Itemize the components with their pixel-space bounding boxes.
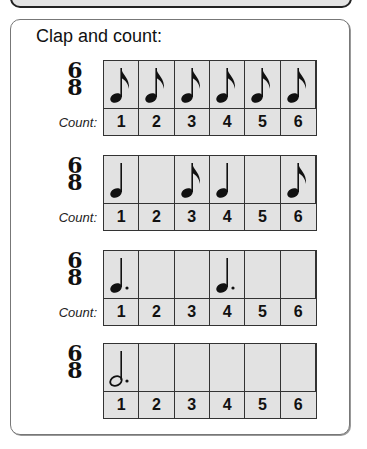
count-cell: 2 xyxy=(139,391,174,418)
note-cell xyxy=(175,61,210,108)
dotted-quarter-note-icon xyxy=(108,255,138,295)
eighth-note-icon xyxy=(249,65,279,105)
count-cell: 3 xyxy=(175,108,210,135)
note-cell xyxy=(245,344,280,391)
count-cell: 4 xyxy=(210,298,245,325)
note-cell xyxy=(104,61,139,108)
note-cell xyxy=(139,61,174,108)
note-cell xyxy=(210,61,245,108)
count-cell: 6 xyxy=(281,298,316,325)
count-cell: 5 xyxy=(245,203,280,230)
count-cell: 5 xyxy=(245,391,280,418)
time-signature: 68 xyxy=(58,252,92,286)
note-cell xyxy=(210,251,245,298)
note-cell xyxy=(245,251,280,298)
count-cell: 6 xyxy=(281,108,316,135)
eighth-note-icon xyxy=(285,160,315,200)
time-sig-bottom: 8 xyxy=(58,269,92,286)
count-cell: 5 xyxy=(245,298,280,325)
time-sig-bottom: 8 xyxy=(58,174,92,191)
quarter-note-icon xyxy=(214,160,244,200)
eighth-note-icon xyxy=(108,65,138,105)
count-cell: 2 xyxy=(139,203,174,230)
note-cell xyxy=(281,344,316,391)
note-cell xyxy=(139,156,174,203)
eighth-note-icon xyxy=(179,65,209,105)
note-cell xyxy=(104,251,139,298)
note-cell xyxy=(104,344,139,391)
note-cell xyxy=(175,251,210,298)
note-cell xyxy=(210,156,245,203)
instruction-text: Clap and count: xyxy=(36,26,162,47)
count-cell: 4 xyxy=(210,108,245,135)
count-label: Count: xyxy=(31,115,97,130)
time-signature: 68 xyxy=(58,345,92,379)
count-cell: 2 xyxy=(139,298,174,325)
count-cell: 6 xyxy=(281,203,316,230)
note-cell xyxy=(281,251,316,298)
note-cell xyxy=(139,344,174,391)
eighth-note-icon xyxy=(285,65,315,105)
time-sig-bottom: 8 xyxy=(58,362,92,379)
time-sig-bottom: 8 xyxy=(58,79,92,96)
eighth-note-icon xyxy=(143,65,173,105)
note-cell xyxy=(281,156,316,203)
note-cell xyxy=(104,156,139,203)
quarter-note-icon xyxy=(108,160,138,200)
note-cell xyxy=(245,156,280,203)
note-cell xyxy=(175,156,210,203)
count-cell: 1 xyxy=(104,203,139,230)
count-cell: 3 xyxy=(175,203,210,230)
count-cell: 1 xyxy=(104,298,139,325)
note-cell xyxy=(139,251,174,298)
count-cell: 3 xyxy=(175,298,210,325)
time-signature: 68 xyxy=(58,62,92,96)
previous-panel-edge xyxy=(10,0,352,8)
rhythm-grid: 123456 xyxy=(103,343,317,419)
rhythm-grid: 123456 xyxy=(103,60,317,136)
rhythm-grid: 123456 xyxy=(103,155,317,231)
note-cell xyxy=(210,344,245,391)
dotted-quarter-note-icon xyxy=(214,255,244,295)
eighth-note-icon xyxy=(179,160,209,200)
count-cell: 3 xyxy=(175,391,210,418)
dotted-half-note-icon xyxy=(108,348,138,388)
count-cell: 4 xyxy=(210,203,245,230)
note-cell xyxy=(281,61,316,108)
time-signature: 68 xyxy=(58,157,92,191)
count-cell: 5 xyxy=(245,108,280,135)
count-cell: 1 xyxy=(104,391,139,418)
eighth-note-icon xyxy=(214,65,244,105)
count-cell: 6 xyxy=(281,391,316,418)
count-label: Count: xyxy=(31,305,97,320)
count-label: Count: xyxy=(31,210,97,225)
count-cell: 1 xyxy=(104,108,139,135)
note-cell xyxy=(175,344,210,391)
count-cell: 2 xyxy=(139,108,174,135)
rhythm-grid: 123456 xyxy=(103,250,317,326)
count-cell: 4 xyxy=(210,391,245,418)
note-cell xyxy=(245,61,280,108)
